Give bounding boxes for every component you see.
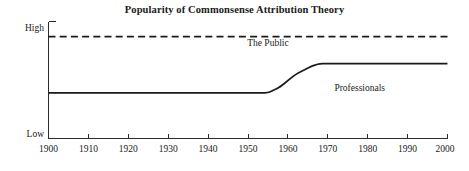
- y-axis-label-low: Low: [27, 129, 45, 139]
- chart-plot-area: High Low 1900 1910 1920 1930: [0, 0, 469, 171]
- x-tick-label-6: 1960: [278, 144, 297, 154]
- y-axis-label-high: High: [25, 23, 44, 33]
- series-annotation-professionals: Professionals: [334, 83, 385, 93]
- x-tick-label-0: 1900: [39, 144, 58, 154]
- x-axis-tick-labels: 1900 1910 1920 1930 1940 1950 1960 1970 …: [39, 144, 455, 154]
- x-tick-label-5: 1950: [239, 144, 258, 154]
- x-tick-label-7: 1970: [318, 144, 337, 154]
- x-tick-label-9: 1990: [398, 144, 417, 154]
- chart-figure: Popularity of Commonsense Attribution Th…: [0, 0, 469, 171]
- x-tick-label-4: 1940: [199, 144, 218, 154]
- series-line-professionals: [49, 64, 448, 93]
- x-axis-ticks: [49, 134, 448, 139]
- x-tick-label-10: 2000: [436, 144, 455, 154]
- x-tick-label-3: 1930: [159, 144, 178, 154]
- series-annotation-the-public: The Public: [247, 38, 288, 48]
- x-tick-label-2: 1920: [119, 144, 138, 154]
- x-tick-label-8: 1980: [358, 144, 377, 154]
- x-tick-label-1: 1910: [79, 144, 98, 154]
